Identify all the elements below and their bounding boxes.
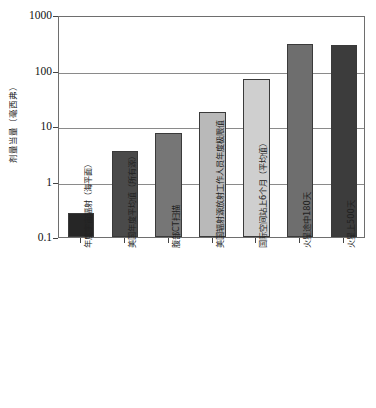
y-axis-tick-mark	[53, 16, 58, 17]
x-axis-category-label: 年度宇宙辐射（海平面）	[84, 160, 92, 248]
x-axis-category-label: 火星上500天	[347, 200, 355, 248]
x-axis-category-label: 美国年度平均值（所有源）	[128, 152, 136, 248]
x-axis-category-labels: 年度宇宙辐射（海平面）美国年度平均值（所有源）腹部CT扫描美国辐射源放射工作人员…	[0, 0, 376, 408]
y-axis-tick-mark	[53, 72, 58, 73]
x-axis-category-label: 腹部CT扫描	[172, 205, 180, 248]
y-axis-tick-mark	[53, 183, 58, 184]
y-axis-tick-mark	[53, 238, 58, 239]
y-axis-tick-mark	[53, 127, 58, 128]
x-axis-category-label: 美国辐射源放射工作人员年度极限值	[216, 120, 224, 248]
x-axis-category-label: 国际空间站上6个月（平均值）	[259, 139, 267, 248]
bar-chart: 剂量当量（毫西弗） 10001001010.1 年度宇宙辐射（海平面）美国年度平…	[0, 0, 376, 408]
x-axis-category-label: 火星途中180天	[303, 192, 311, 248]
